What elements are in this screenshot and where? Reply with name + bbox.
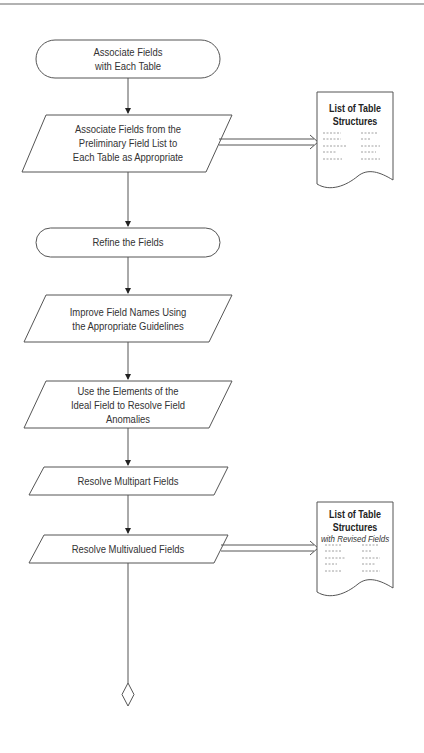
title-line: List of Table [323, 102, 388, 115]
label-line: Use the Elements of the [42, 384, 214, 398]
title-line: Structures [323, 521, 388, 534]
label-line: Associate Fields from the [42, 122, 214, 136]
label-line: Anomalies [42, 412, 214, 426]
document-2-subtitle: with Revised Fields [318, 534, 392, 545]
label-line: Associate Fields [49, 45, 207, 59]
terminal-1-label: Associate Fields with Each Table [49, 45, 207, 73]
title-line: List of Table [323, 508, 388, 521]
label-line: Improve Field Names Using [42, 305, 214, 319]
label-line: Refine the Fields [49, 235, 207, 249]
label-line: Preliminary Field List to [42, 136, 214, 150]
process-4-label: Resolve Multipart Fields [42, 474, 214, 488]
process-1-label: Associate Fields from the Preliminary Fi… [42, 122, 214, 164]
label-line: Ideal Field to Resolve Field [42, 398, 214, 412]
output-arrow-1 [219, 135, 318, 149]
label-line: Resolve Multipart Fields [42, 474, 214, 488]
document-2-title: List of Table Structures [323, 508, 388, 534]
process-2-label: Improve Field Names Using the Appropriat… [42, 305, 214, 333]
label-line: with Each Table [49, 59, 207, 73]
process-3-label: Use the Elements of the Ideal Field to R… [42, 384, 214, 426]
document-1-title: List of Table Structures [323, 102, 388, 128]
label-line: the Appropriate Guidelines [42, 319, 214, 333]
title-line: Structures [323, 115, 388, 128]
label-line: Resolve Multivalued Fields [42, 542, 214, 556]
diamond-connector-icon [122, 683, 134, 706]
output-arrow-2 [221, 541, 318, 555]
label-line: Each Table as Appropriate [42, 150, 214, 164]
terminal-2-label: Refine the Fields [49, 235, 207, 249]
process-5-label: Resolve Multivalued Fields [42, 542, 214, 556]
